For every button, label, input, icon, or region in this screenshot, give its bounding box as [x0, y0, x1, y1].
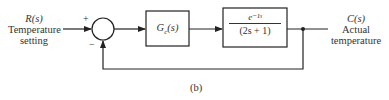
controller-label: Gc(s)	[146, 22, 189, 36]
plant-transfer-function: e⁻¹ˢ (2s + 1)	[223, 12, 287, 36]
plant-denominator: (2s + 1)	[223, 25, 287, 36]
summing-junction	[92, 18, 114, 40]
input-label: R(s) Temperature setting	[4, 13, 64, 46]
plus-sign: +	[83, 13, 89, 24]
output-symbol: C(s)	[325, 13, 387, 24]
fraction-bar	[229, 23, 281, 24]
minus-sign: −	[89, 39, 95, 50]
plant-numerator: e⁻¹ˢ	[223, 12, 287, 22]
figure-caption: (b)	[190, 82, 202, 93]
output-label: C(s) Actual temperature	[325, 13, 387, 46]
output-description: Actual temperature	[329, 24, 383, 46]
input-description: Temperature setting	[8, 24, 60, 46]
input-symbol: R(s)	[4, 13, 64, 24]
